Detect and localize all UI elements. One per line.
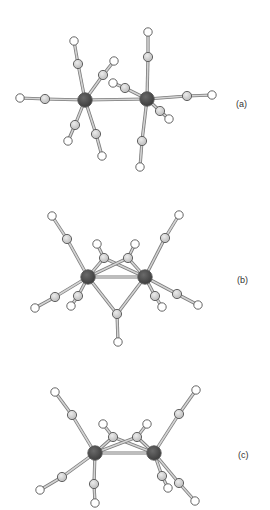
- carbon-atom: [143, 52, 152, 61]
- molecule-drawing: [0, 0, 270, 510]
- metal-metal-bond: [85, 99, 147, 100]
- oxygen-atom: [164, 484, 172, 492]
- oxygen-atom: [36, 486, 44, 494]
- oxygen-atom: [16, 94, 24, 102]
- oxygen-atom: [31, 304, 39, 312]
- oxygen-atom: [51, 388, 59, 396]
- oxygen-atom: [191, 497, 199, 505]
- oxygen-atom: [165, 115, 173, 123]
- metal-atom: [88, 446, 102, 460]
- carbon-atom: [157, 471, 166, 480]
- oxygen-atom: [143, 420, 151, 428]
- metal-atom: [81, 270, 95, 284]
- oxygen-atom: [91, 499, 99, 507]
- panel-label-b: (b): [237, 275, 248, 285]
- carbon-atom: [150, 291, 159, 300]
- metal-atom: [140, 92, 154, 106]
- carbon-atom: [123, 253, 132, 262]
- oxygen-atom: [131, 240, 139, 248]
- carbon-atom: [70, 120, 79, 129]
- carbon-atom: [98, 70, 107, 79]
- oxygen-atom: [70, 37, 78, 45]
- panel-label-c: (c): [238, 450, 249, 460]
- carbon-atom: [160, 233, 169, 242]
- oxygen-atom: [175, 211, 183, 219]
- oxygen-atom: [114, 338, 122, 346]
- oxygen-atom: [110, 57, 118, 65]
- carbon-atom: [67, 410, 76, 419]
- oxygen-atom: [109, 79, 117, 87]
- carbon-atom: [137, 136, 146, 145]
- metal-atom: [138, 270, 152, 284]
- oxygen-atom: [208, 91, 216, 99]
- carbon-atom: [112, 309, 121, 318]
- carbon-atom: [73, 59, 82, 68]
- oxygen-atom: [158, 303, 166, 311]
- oxygen-atom: [144, 28, 152, 36]
- metal-atom: [78, 93, 92, 107]
- panel-label-a: (a): [236, 99, 247, 109]
- carbon-atom: [174, 478, 183, 487]
- carbon-atom: [50, 292, 59, 301]
- carbon-atom: [172, 289, 181, 298]
- carbon-atom: [73, 291, 82, 300]
- oxygen-atom: [93, 240, 101, 248]
- oxygen-atom: [192, 386, 200, 394]
- oxygen-atom: [136, 163, 144, 171]
- carbon-atom: [174, 409, 183, 418]
- oxygen-atom: [98, 152, 106, 160]
- metal-atom: [147, 446, 161, 460]
- oxygen-atom: [99, 420, 107, 428]
- carbon-atom: [155, 106, 164, 115]
- oxygen-atom: [194, 301, 202, 309]
- carbon-atom: [99, 253, 108, 262]
- carbon-atom: [182, 91, 191, 100]
- oxygen-atom: [48, 212, 56, 220]
- oxygen-atom: [64, 137, 72, 145]
- oxygen-atom: [67, 302, 75, 310]
- carbon-atom: [91, 129, 100, 138]
- carbon-atom: [108, 432, 117, 441]
- carbon-atom: [40, 94, 49, 103]
- carbon-atom: [62, 234, 71, 243]
- carbon-atom: [132, 432, 141, 441]
- molecular-structures-figure: (a) (b) (c): [0, 0, 270, 510]
- carbon-atom: [57, 472, 66, 481]
- carbon-atom: [89, 479, 98, 488]
- carbon-atom: [120, 83, 129, 92]
